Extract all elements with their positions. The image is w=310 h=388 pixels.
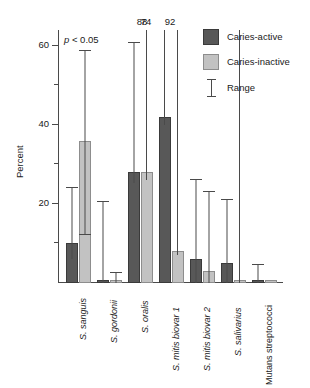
y-tick-40 bbox=[52, 124, 58, 125]
y-tick-50 bbox=[54, 84, 58, 85]
bar-chart-figure: Percent 60 40 20 74 88 92 bbox=[0, 0, 310, 388]
y-tick-60 bbox=[52, 45, 58, 46]
clip-value-92: 92 bbox=[158, 17, 182, 27]
legend-swatch-caries-inactive bbox=[203, 54, 219, 70]
x-tick-label-salivarius: S. salivarius bbox=[233, 307, 243, 356]
legend-swatch-caries-active bbox=[203, 29, 219, 45]
x-tick-label-mitis2: S. mitis biovar 2 bbox=[202, 307, 212, 371]
x-tick-label-mutans: Mutans streptococci bbox=[264, 305, 274, 385]
p-value-annotation: p < 0.05 bbox=[64, 34, 99, 45]
bar-salivarius-inactive bbox=[234, 280, 246, 283]
errorbar-mitis2-active bbox=[190, 179, 202, 283]
errorbar-sanguis-inactive bbox=[79, 50, 91, 235]
errorbar-sanguis-active bbox=[66, 187, 78, 259]
y-tick-label-20: 20 bbox=[22, 198, 49, 208]
errorbar-gordonii-active bbox=[97, 201, 109, 283]
legend-label-range: Range bbox=[227, 80, 255, 96]
clip-value-88: 88 bbox=[130, 17, 154, 27]
legend-label-caries-active: Caries-active bbox=[227, 29, 282, 45]
bar-mutans-inactive bbox=[265, 280, 277, 283]
y-tick-10 bbox=[54, 242, 58, 243]
y-tick-30 bbox=[54, 163, 58, 164]
y-tick-label-40: 40 bbox=[22, 119, 49, 129]
errorbar-mitis1-inactive-clipped bbox=[177, 30, 178, 255]
x-tick-label-sanguis: S. sanguis bbox=[78, 298, 88, 340]
p-value-rest: < 0.05 bbox=[69, 34, 98, 45]
legend-errorbar-icon bbox=[207, 79, 216, 97]
errorbar-gordonii-inactive bbox=[110, 272, 122, 283]
y-axis-line bbox=[58, 30, 59, 282]
y-tick-20 bbox=[52, 203, 58, 204]
errorbar-mutans-active bbox=[252, 264, 264, 283]
x-tick-label-gordonii: S. gordonii bbox=[109, 300, 119, 343]
y-axis-title: Percent bbox=[14, 145, 25, 178]
x-tick-label-mitis1: S. mitis biovar 1 bbox=[171, 307, 181, 371]
errorbar-oralis-inactive-clipped bbox=[146, 30, 147, 180]
bar-oralis-inactive bbox=[141, 172, 153, 283]
errorbar-mitis2-inactive bbox=[203, 191, 215, 283]
bar-mitis1-inactive bbox=[172, 251, 184, 283]
errorbar-salivarius-active bbox=[221, 199, 233, 283]
x-tick-label-oralis: S. oralis bbox=[140, 300, 150, 333]
errorbar-oralis-active bbox=[128, 42, 140, 183]
legend-label-caries-inactive: Caries-inactive bbox=[227, 54, 290, 70]
bar-mitis1-active bbox=[159, 117, 171, 283]
y-tick-label-60: 60 bbox=[22, 40, 49, 50]
errorbar-mitis1-active-clipped bbox=[164, 30, 165, 125]
bar-oralis-active bbox=[128, 172, 140, 283]
